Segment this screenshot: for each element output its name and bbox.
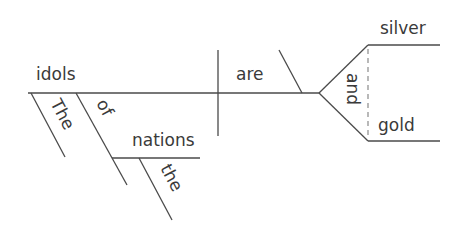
complement-slant-line [279, 50, 302, 93]
word-and: and [343, 73, 363, 105]
word-silver: silver [380, 18, 426, 38]
word-the-object-article: the [156, 160, 187, 194]
word-nations: nations [132, 130, 195, 150]
word-the-article: The [46, 95, 79, 133]
word-gold: gold [378, 115, 415, 135]
word-verb: are [236, 64, 264, 84]
word-of: of [92, 95, 118, 120]
word-subject: idols [36, 64, 76, 84]
sentence-diagram: idols are silver gold nations The of the… [0, 0, 459, 235]
